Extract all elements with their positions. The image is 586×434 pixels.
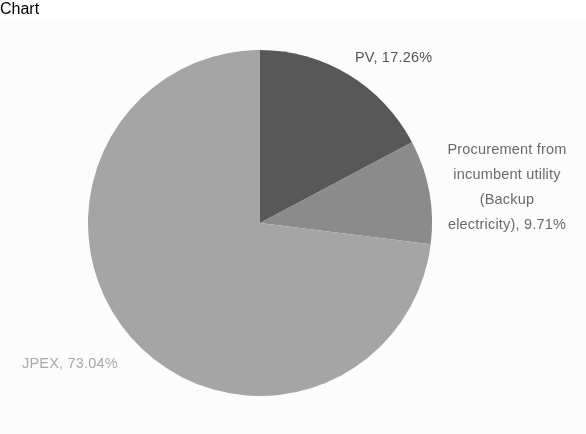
slice-label-procurement-line-4: electricity), 9.71% [432, 212, 582, 237]
slice-label-procurement-line-3: (Backup [432, 187, 582, 212]
slice-label-procurement-line-2: incumbent utility [432, 162, 582, 187]
slice-label-procurement: Procurement from incumbent utility (Back… [432, 137, 582, 237]
slice-label-procurement-line-1: Procurement from [432, 137, 582, 162]
slice-label-pv: PV, 17.26% [355, 45, 432, 70]
pie-slices-group [88, 50, 432, 396]
pie-chart-figure: PV, 17.26% Procurement from incumbent ut… [0, 18, 586, 434]
slice-label-jpex: JPEX, 73.04% [22, 351, 118, 376]
